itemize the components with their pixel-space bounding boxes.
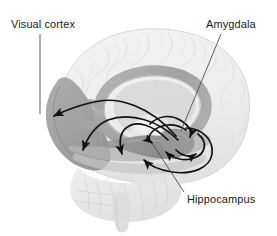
label-hippocampus: Hippocampus (187, 193, 255, 206)
brainstem-region (112, 192, 130, 233)
brainstem-shape (112, 192, 130, 233)
label-amygdala: Amygdala (206, 18, 256, 31)
brain-diagram-figure: Visual cortex Amygdala Hippocampus (0, 0, 277, 236)
label-visual-cortex: Visual cortex (11, 18, 75, 31)
